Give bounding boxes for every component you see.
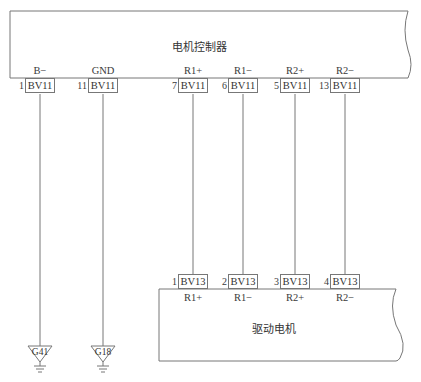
controller-pin-number: 6 [213, 80, 227, 92]
controller-signal-label: GND [83, 65, 123, 77]
controller-pin-number: 13 [315, 80, 329, 92]
controller-signal-label: R2− [325, 65, 365, 77]
motor-pin-number: 4 [315, 276, 329, 288]
controller-title: 电机控制器 [172, 38, 227, 54]
ground-label: G18 [91, 347, 115, 357]
controller-connector: BV11 [228, 78, 258, 93]
controller-signal-label: R2+ [275, 65, 315, 77]
motor-signal-label: R2+ [275, 292, 315, 304]
motor-connector: BV13 [178, 274, 208, 289]
controller-pin-number: 1 [10, 80, 24, 92]
motor-signal-label: R2− [325, 292, 365, 304]
motor-connector: BV13 [228, 274, 258, 289]
motor-pin-number: 2 [213, 276, 227, 288]
wiring-diagram-lines [0, 0, 421, 382]
controller-signal-label: R1+ [173, 65, 213, 77]
motor-connector: BV13 [330, 274, 360, 289]
motor-signal-label: R1+ [173, 292, 213, 304]
motor-title: 驱动电机 [252, 320, 296, 336]
controller-connector: BV11 [330, 78, 360, 93]
controller-signal-label: R1− [223, 65, 263, 77]
ground-label: G41 [28, 347, 52, 357]
controller-connector: BV11 [88, 78, 118, 93]
motor-signal-label: R1− [223, 292, 263, 304]
controller-pin-number: 5 [265, 80, 279, 92]
controller-pin-number: 7 [163, 80, 177, 92]
controller-connector: BV11 [25, 78, 55, 93]
controller-signal-label: B− [20, 65, 60, 77]
controller-pin-number: 11 [73, 80, 87, 92]
motor-connector: BV13 [280, 274, 310, 289]
controller-connector: BV11 [280, 78, 310, 93]
motor-pin-number: 1 [163, 276, 177, 288]
controller-connector: BV11 [178, 78, 208, 93]
motor-pin-number: 3 [265, 276, 279, 288]
